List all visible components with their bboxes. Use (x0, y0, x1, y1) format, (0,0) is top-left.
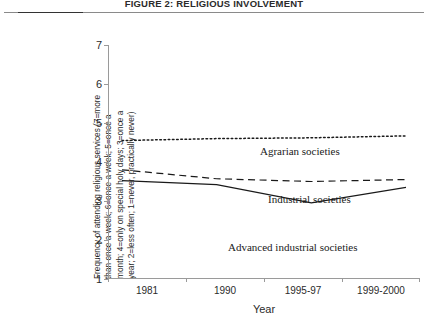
x-tick-label-2: 1995-97 (285, 285, 322, 296)
series-line-industrial-societies (122, 170, 406, 182)
y-tick-label-5: 5 (96, 117, 102, 129)
x-tick-label-1: 1990 (214, 285, 236, 296)
y-tick-label-4: 4 (96, 156, 102, 168)
y-axis-caption: Frequency of attending religious service… (0, 45, 96, 279)
y-tick-label-3: 3 (96, 195, 102, 207)
series-line-advanced-industrial-societies (122, 181, 406, 203)
y-tick-label-6: 6 (96, 78, 102, 90)
series-label-agrarian-societies: Agrarian societies (260, 145, 340, 157)
chart-plot-area: 7654321 198119901995-971999-2000 Agraria… (108, 45, 420, 279)
title-divider (4, 12, 424, 13)
series-label-industrial-societies: Industrial societies (268, 193, 351, 205)
y-tick-label-2: 2 (96, 234, 102, 246)
y-tick-label-1: 1 (96, 273, 102, 285)
x-axis-title: Year (108, 303, 420, 315)
series-line-agrarian-societies (122, 136, 406, 141)
y-tick-label-7: 7 (96, 39, 102, 51)
series-label-advanced-industrial-societies: Advanced industrial societies (228, 241, 358, 253)
x-tick-label-0: 1981 (136, 285, 158, 296)
figure-title: FIGURE 2: RELIGIOUS INVOLVEMENT (0, 0, 428, 9)
x-tick-label-3: 1999-2000 (357, 285, 405, 296)
